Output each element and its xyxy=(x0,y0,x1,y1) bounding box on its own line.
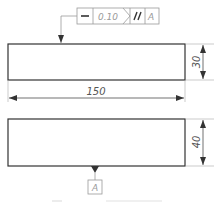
technical-drawing: 0.10 A 30 150 40 A xyxy=(0,0,214,208)
datum-triangle-icon xyxy=(91,166,99,173)
datum-symbol: A xyxy=(88,166,102,194)
feature-control-frame: 0.10 A xyxy=(77,8,159,24)
dimension-height-bottom: 40 xyxy=(191,136,202,149)
bottom-part-outline xyxy=(8,119,185,166)
fcf-datum-reference: A xyxy=(147,12,154,22)
leader-line xyxy=(61,16,77,43)
dimension-width: 150 xyxy=(86,86,105,97)
datum-label: A xyxy=(91,183,98,193)
tolerance-value: 0.10 xyxy=(98,12,118,22)
top-part-outline xyxy=(8,44,185,80)
parallelism-symbol-icon xyxy=(134,12,141,20)
dimension-height-top: 30 xyxy=(191,56,202,69)
faint-caption xyxy=(52,200,162,202)
